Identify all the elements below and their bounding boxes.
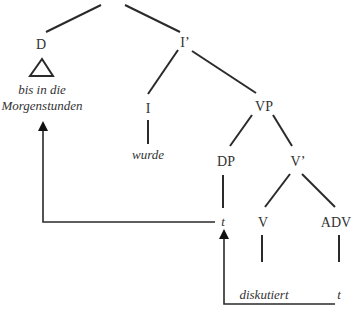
movement-arrow-dp-to-d: [43, 130, 215, 222]
branch-ibar-vp: [192, 51, 256, 93]
arrowhead-up-icon: [219, 229, 229, 239]
leaf-wurde: wurde: [132, 147, 164, 162]
node-vp: VP: [255, 99, 273, 114]
arrowhead-up-icon: [38, 121, 48, 131]
node-i: I: [146, 101, 151, 116]
leaf-d-line2: Morgenstunden: [0, 98, 82, 113]
leaf-diskutiert: diskutiert: [239, 287, 288, 302]
triangle-icon: [30, 59, 53, 76]
node-dp: DP: [217, 154, 235, 169]
leaf-d-line1: bis in die: [18, 82, 66, 97]
node-d: D: [36, 37, 46, 52]
node-i-bar: I’: [180, 35, 189, 50]
branch-vp-vbar: [273, 115, 292, 146]
syntax-tree-diagram: D I’ I VP DP V’ V ADV bis in die Morgens…: [0, 0, 355, 309]
leaf-adv-trace: t: [337, 287, 341, 302]
tree-branches: [46, 5, 339, 262]
leaf-dp-trace: t: [221, 214, 225, 229]
node-v: V: [258, 215, 268, 230]
branch-vp-dp: [230, 115, 252, 146]
node-adv: ADV: [321, 215, 351, 230]
branch-vbar-adv: [302, 174, 335, 207]
branch-vbar-v: [265, 174, 290, 207]
branch-top-right: [125, 5, 180, 32]
branch-ibar-i: [148, 50, 178, 94]
node-v-bar: V’: [291, 154, 306, 169]
branch-top-left: [46, 5, 101, 32]
